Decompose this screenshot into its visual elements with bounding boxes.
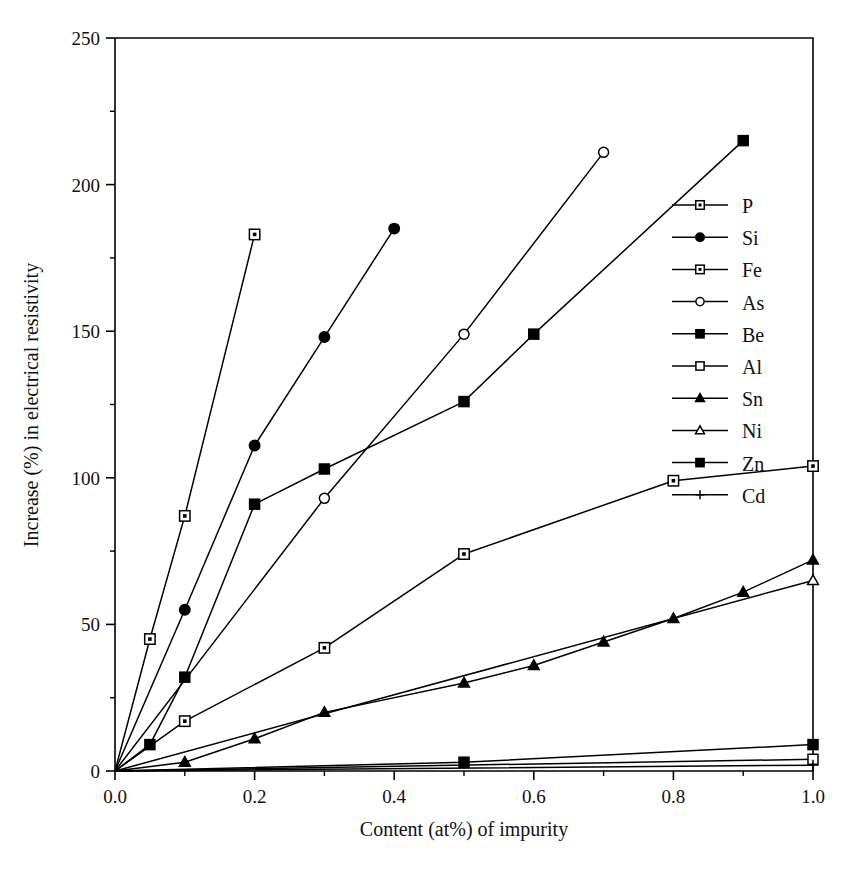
data-point-marker-square-dot: [180, 511, 190, 521]
x-tick-label: 0.6: [522, 786, 546, 807]
data-point-marker-filled-square: [145, 740, 155, 750]
data-point-marker-square-dot: [808, 461, 818, 471]
data-point-marker-filled-square: [180, 672, 190, 682]
resistivity-line-chart: 0.00.20.40.60.81.0 050100150200250 PSiFe…: [0, 0, 860, 876]
data-point-marker-filled-square: [459, 397, 469, 407]
data-point-marker-filled-square: [319, 464, 329, 474]
data-point-marker-filled-square: [250, 499, 260, 509]
legend-label: Sn: [742, 388, 763, 410]
data-point-marker-square-dot: [180, 716, 190, 726]
legend-label: Cd: [742, 485, 765, 507]
legend-label: Zn: [742, 453, 764, 475]
data-point-marker-square-dot: [319, 643, 329, 653]
x-tick-label: 0.8: [662, 786, 686, 807]
chart-root: 0.00.20.40.60.81.0 050100150200250 PSiFe…: [0, 0, 860, 876]
data-point-marker-square-dot: [696, 265, 705, 274]
data-point-marker-square-dot: [459, 549, 469, 559]
data-point-marker-filled-square: [696, 330, 704, 338]
legend-label: Si: [742, 227, 759, 249]
legend-label: P: [742, 195, 753, 217]
data-point-marker-filled-square: [459, 757, 469, 767]
chart-background: [0, 0, 860, 876]
x-tick-label: 0.2: [243, 786, 267, 807]
legend-label: Al: [742, 356, 762, 378]
y-tick-label: 100: [72, 468, 101, 489]
data-point-marker-filled-circle: [180, 605, 190, 615]
data-point-marker-square-dot: [145, 634, 155, 644]
data-point-marker-filled-square: [696, 459, 704, 467]
data-point-marker-filled-circle: [319, 332, 329, 342]
x-axis-label: Content (at%) of impurity: [360, 818, 568, 841]
y-tick-label: 0: [91, 761, 101, 782]
legend-label: Be: [742, 324, 764, 346]
data-point-marker-square-dot: [668, 476, 678, 486]
data-point-marker-filled-circle: [389, 223, 399, 233]
y-tick-label: 250: [72, 28, 101, 49]
data-point-marker-filled-square: [529, 329, 539, 339]
x-tick-label: 0.0: [103, 786, 127, 807]
data-point-marker-open-circle: [319, 493, 329, 503]
data-point-marker-filled-square: [738, 136, 748, 146]
data-point-marker-open-square: [696, 362, 704, 370]
legend-label: Fe: [742, 259, 762, 281]
y-tick-label: 150: [72, 321, 101, 342]
data-point-marker-square-dot: [696, 201, 705, 210]
y-axis-label: Increase (%) in electrical resistivity: [20, 263, 43, 547]
legend-label: Ni: [742, 420, 762, 442]
data-point-marker-open-circle: [459, 329, 469, 339]
data-point-marker-open-circle: [599, 147, 609, 157]
x-tick-label: 1.0: [801, 786, 825, 807]
data-point-marker-filled-circle: [696, 233, 705, 242]
data-point-marker-open-circle: [696, 298, 704, 306]
x-tick-label: 0.4: [382, 786, 406, 807]
data-point-marker-filled-circle: [249, 440, 259, 450]
y-tick-label: 200: [72, 175, 101, 196]
legend-label: As: [742, 292, 764, 314]
data-point-marker-filled-square: [808, 740, 818, 750]
y-tick-label: 50: [81, 614, 100, 635]
data-point-marker-square-dot: [249, 229, 259, 239]
